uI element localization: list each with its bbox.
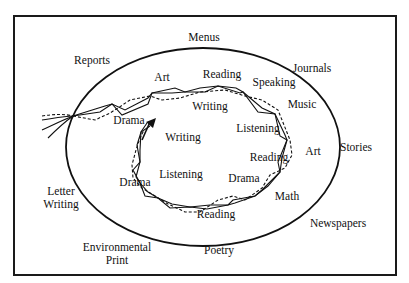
label-letter-writing-line1: Letter bbox=[43, 185, 78, 198]
label-drama-bottom-left: Drama bbox=[119, 176, 150, 188]
label-drama-left: Drama bbox=[113, 114, 144, 126]
label-journals: Journals bbox=[293, 62, 331, 74]
label-environmental-print-line2: Print bbox=[83, 254, 151, 267]
label-stories: Stories bbox=[340, 141, 372, 153]
label-writing-top: Writing bbox=[192, 100, 227, 112]
label-listening-right: Listening bbox=[236, 122, 279, 134]
label-music: Music bbox=[288, 98, 317, 110]
label-letter-writing-line2: Writing bbox=[43, 198, 78, 211]
label-speaking: Speaking bbox=[253, 76, 296, 88]
label-newspapers: Newspapers bbox=[310, 217, 366, 229]
label-writing-inner: Writing bbox=[165, 131, 200, 143]
label-art-right: Art bbox=[305, 145, 320, 157]
braided-loop-solid bbox=[73, 86, 287, 209]
label-letter-writing: Letter Writing bbox=[43, 185, 78, 211]
label-reading-top: Reading bbox=[203, 68, 241, 80]
label-menus: Menus bbox=[188, 31, 219, 43]
label-environmental-print-line1: Environmental bbox=[83, 241, 151, 254]
label-reading-bottom: Reading bbox=[197, 208, 235, 220]
label-art-top: Art bbox=[154, 71, 169, 83]
label-drama-bottom-right: Drama bbox=[228, 172, 259, 184]
label-reports: Reports bbox=[74, 54, 110, 66]
label-math: Math bbox=[275, 190, 299, 202]
label-reading-right: Reading bbox=[250, 151, 288, 163]
label-listening-bottom: Listening bbox=[159, 168, 202, 180]
label-environmental-print: Environmental Print bbox=[83, 241, 151, 267]
label-poetry: Poetry bbox=[204, 244, 234, 256]
